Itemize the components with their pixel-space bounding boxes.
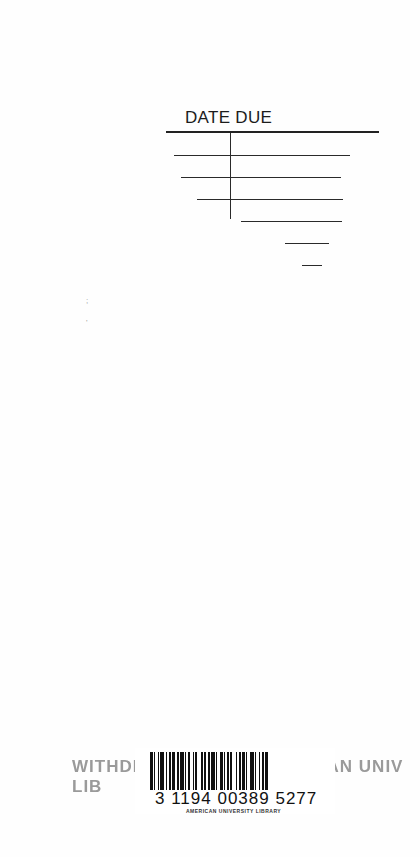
library-name: AMERICAN UNIVERSITY LIBRARY [186,808,281,814]
scanned-page: DATE DUE ; ' WITHDRAWN FROM AMERICAN UNI… [0,0,420,857]
row-line-3 [197,199,343,200]
barcode-number: 3 1194 00389 5277 [155,789,317,809]
row-line-6 [302,265,322,266]
margin-mark-2: ' [86,318,88,327]
date-due-title: DATE DUE [185,108,272,128]
barcode [150,752,315,790]
row-line-1 [174,155,350,156]
row-line-4 [241,221,342,222]
row-line-5 [285,243,329,244]
row-line-2 [181,177,341,178]
header-rule [166,131,379,133]
margin-mark-1: ; [86,296,88,305]
barcode-space [268,752,269,790]
column-divider [230,133,231,219]
